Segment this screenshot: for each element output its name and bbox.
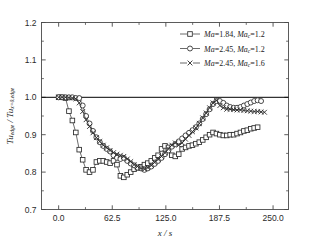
y-tick-label: 0.9: [25, 130, 37, 140]
y-axis-title: Tuedge / Tux=0,edge: [5, 87, 15, 144]
marker-square: [80, 157, 85, 162]
y-tick-label: 0.7: [25, 205, 37, 215]
x-tick-label: 0.0: [53, 213, 65, 223]
marker-square: [115, 162, 120, 167]
chart-canvas: 0.70.80.91.01.11.20.062.5125.0187.5250.0…: [0, 0, 311, 251]
legend-label: Ma=2.45, Mac=1.6: [203, 59, 265, 68]
marker-square: [67, 109, 72, 114]
x-tick-label: 125.0: [155, 213, 177, 223]
x-tick-label: 62.5: [104, 213, 121, 223]
marker-square: [176, 152, 181, 157]
marker-square: [77, 147, 82, 152]
marker-square: [74, 130, 79, 135]
marker-square: [255, 125, 260, 130]
x-tick-label: 250.0: [262, 213, 284, 223]
marker-square: [188, 32, 193, 37]
y-axis-title-text: Tuedge / Tux=0,edge: [5, 87, 15, 144]
y-tick-label: 1.0: [25, 92, 37, 102]
y-tick-label: 0.8: [25, 167, 37, 177]
x-axis-title: x / s: [157, 228, 173, 238]
x-tick-label: 187.5: [209, 213, 231, 223]
y-tick-label: 1.1: [25, 55, 37, 65]
figure-container: 0.70.80.91.01.11.20.062.5125.0187.5250.0…: [0, 0, 311, 251]
marker-circle: [188, 46, 193, 51]
y-tick-label: 1.2: [25, 18, 37, 28]
legend-label: Ma=1.84, Mac=1.2: [203, 30, 265, 39]
legend-label: Ma=2.45, Mac=1.2: [203, 45, 265, 54]
marker-square: [91, 168, 96, 173]
marker-circle: [259, 99, 264, 104]
marker-circle: [77, 96, 82, 101]
marker-square: [70, 118, 75, 123]
